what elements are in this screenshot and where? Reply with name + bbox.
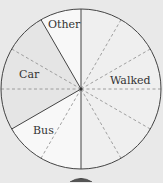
label-walked: Walked: [110, 74, 151, 87]
bottom-edge-fragment: [70, 179, 92, 183]
label-car: Car: [19, 68, 40, 81]
pie-chart: Other Car Walked Bus: [0, 0, 163, 182]
label-bus: Bus: [33, 124, 54, 137]
label-other: Other: [48, 18, 81, 31]
center-dot: [80, 88, 83, 91]
